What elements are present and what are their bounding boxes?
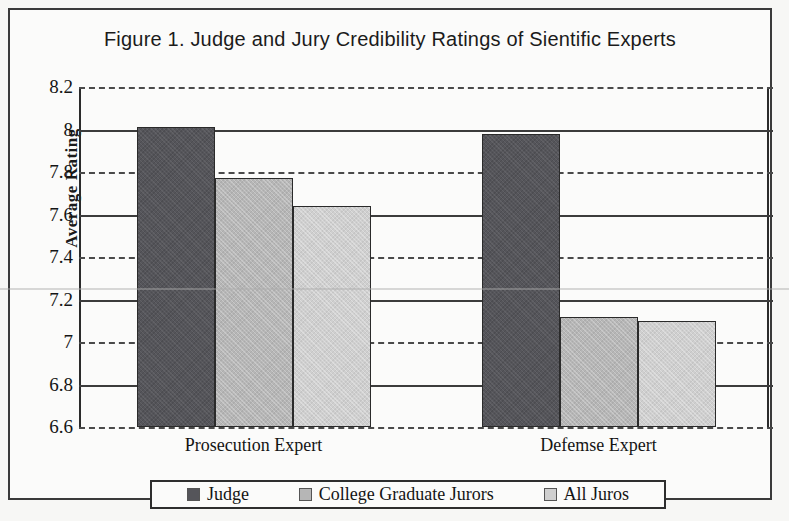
y-axis-tick-label: 8.2 — [49, 76, 73, 98]
bar-judge-defemse-expert — [482, 134, 560, 427]
gridline — [79, 87, 773, 89]
bar-all-juros-defemse-expert — [638, 321, 716, 427]
y-axis-tick-label: 8 — [64, 118, 74, 140]
legend-swatch-icon — [187, 488, 200, 501]
y-axis-tick-label: 6.8 — [49, 373, 73, 395]
y-axis-tick-label: 7.2 — [49, 288, 73, 310]
figure-frame: Figure 1. Judge and Jury Credibility Rat… — [8, 8, 772, 500]
legend-swatch-icon — [299, 488, 312, 501]
y-axis-tick-label: 7 — [64, 331, 74, 353]
legend-label: Judge — [207, 484, 249, 505]
legend-swatch-icon — [544, 488, 557, 501]
chart-legend: JudgeCollege Graduate JurorsAll Juros — [150, 480, 666, 509]
x-axis-category-label: Prosecution Expert — [185, 435, 322, 456]
legend-item: College Graduate Jurors — [299, 484, 494, 505]
gridline — [79, 427, 773, 429]
legend-label: All Juros — [564, 484, 630, 505]
y-axis-tick-label: 6.6 — [49, 416, 73, 438]
legend-label: College Graduate Jurors — [319, 484, 494, 505]
y-axis-tick-label: 7.4 — [49, 246, 73, 268]
bar-judge-prosecution-expert — [137, 127, 215, 427]
y-axis-tick-label: 7.6 — [49, 203, 73, 225]
figure-root: Figure 1. Judge and Jury Credibility Rat… — [0, 0, 789, 521]
bar-college-graduate-jurors-prosecution-expert — [215, 178, 293, 427]
y-axis-tick-label: 7.8 — [49, 161, 73, 183]
x-axis-category-label: Defemse Expert — [540, 435, 656, 456]
chart-title: Figure 1. Judge and Jury Credibility Rat… — [10, 28, 770, 51]
bar-college-graduate-jurors-defemse-expert — [560, 317, 638, 428]
legend-item: Judge — [187, 484, 249, 505]
bar-all-juros-prosecution-expert — [293, 206, 371, 427]
legend-item: All Juros — [544, 484, 630, 505]
plot-area: 8.287.87.67.47.276.86.6 Prosecution Expe… — [79, 87, 769, 427]
